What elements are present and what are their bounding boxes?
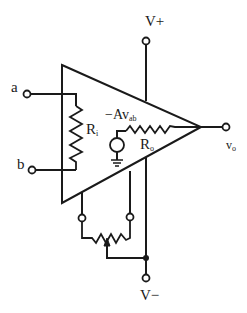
ri-label-sub: i (96, 129, 98, 138)
ri-label: Ri (86, 122, 98, 138)
circuit-drawing (0, 0, 247, 313)
v-plus-label: V+ (145, 14, 164, 29)
ground-icon (111, 160, 123, 166)
source-label-sub: ab (129, 114, 137, 123)
ro-label-sub: o (150, 144, 154, 153)
v-minus-label: V− (140, 288, 159, 303)
source-label-main: −Av (105, 107, 129, 122)
input-a-label: a (11, 80, 18, 95)
v-minus-terminal (143, 157, 150, 282)
ri-resistor (70, 106, 82, 170)
input-b-label: b (17, 157, 25, 172)
ro-label-main: R (140, 136, 150, 152)
ro-label: Ro (140, 137, 154, 153)
op-amp-circuit-diagram: V+ a b Ri −Avab Ro vo V− (0, 0, 247, 313)
input-b-wire (29, 167, 77, 174)
potentiometer-wiper (104, 238, 146, 258)
ro-resistor (126, 126, 201, 133)
ri-label-main: R (86, 121, 96, 137)
amplifier-triangle (62, 65, 201, 203)
dependent-voltage-source (110, 131, 126, 160)
source-label: −Avab (105, 108, 137, 123)
input-a-wire (24, 91, 77, 107)
vo-label-sub: o (232, 144, 236, 153)
v-plus-terminal (143, 38, 150, 102)
output-terminal (201, 124, 230, 131)
vo-label: vo (226, 139, 236, 153)
